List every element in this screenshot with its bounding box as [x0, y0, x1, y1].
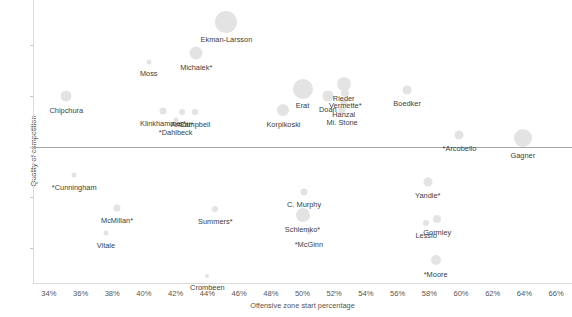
data-point-bubble — [431, 255, 441, 265]
y-axis-tick-mark — [30, 147, 33, 148]
data-point-bubble — [61, 91, 72, 102]
x-axis-tick-label: 62% — [485, 289, 500, 298]
x-axis-tick-label: 56% — [390, 289, 405, 298]
data-point-bubble — [322, 91, 333, 102]
data-point-bubble — [433, 215, 441, 223]
data-point-label: Moss — [140, 69, 158, 78]
data-point-bubble — [423, 220, 429, 226]
x-axis-tick-label: 52% — [327, 289, 342, 298]
y-axis-tick-mark — [30, 248, 33, 249]
data-point-bubble — [205, 274, 209, 278]
data-point-label: Michalek* — [180, 63, 212, 72]
data-point-bubble — [212, 206, 218, 212]
data-point-label: Gagner — [511, 151, 536, 160]
data-point-bubble — [277, 104, 289, 116]
x-axis-line — [33, 283, 572, 284]
data-point-label: *McGinn — [295, 240, 323, 249]
y-axis-label-wrap: Quality of competition — [0, 96, 12, 206]
x-axis-tick-label: 44% — [200, 289, 215, 298]
x-axis-tick-label: 34% — [41, 289, 56, 298]
data-point-bubble — [301, 189, 308, 196]
data-point-bubble — [72, 172, 77, 177]
data-point-label: Mi. Stone — [327, 118, 358, 127]
data-point-bubble — [403, 85, 412, 94]
data-point-label: Summers* — [198, 217, 233, 226]
data-point-bubble — [514, 129, 532, 147]
data-point-bubble — [179, 109, 185, 115]
x-axis-tick-label: 54% — [358, 289, 373, 298]
y-axis-tick-mark — [30, 45, 33, 46]
data-point-bubble — [190, 46, 203, 59]
data-point-bubble — [293, 79, 313, 99]
data-point-label: C. Murphy — [287, 200, 321, 209]
player-usage-scatter-chart: Arizona Coyotes player usage chart Quali… — [0, 0, 572, 317]
data-point-label: Ekman-Larsson — [201, 35, 253, 44]
data-point-label: Chipchura — [49, 106, 83, 115]
x-axis-tick-label: 66% — [549, 289, 564, 298]
data-point-bubble — [114, 205, 121, 212]
data-point-bubble — [192, 109, 198, 115]
data-point-label: *Arcobello — [443, 144, 477, 153]
data-point-label: McMillan* — [101, 216, 133, 225]
x-axis-tick-label: 50% — [295, 289, 310, 298]
data-point-label: Vermette* — [329, 101, 361, 110]
x-axis-tick-label: 42% — [168, 289, 183, 298]
data-point-label: Lessio — [415, 231, 436, 240]
data-point-bubble — [146, 59, 151, 64]
data-point-label: Korpikoski — [266, 120, 300, 129]
data-point-bubble — [215, 11, 237, 33]
data-point-label: *Cunningham — [52, 183, 97, 192]
y-axis-tick-mark — [30, 96, 33, 97]
x-axis-tick-label: 38% — [105, 289, 120, 298]
y-axis-tick-mark — [30, 197, 33, 198]
data-point-bubble — [296, 208, 310, 222]
data-point-label: Schlemko* — [285, 225, 320, 234]
x-axis-tick-label: 58% — [422, 289, 437, 298]
x-axis-tick-label: 48% — [263, 289, 278, 298]
zero-reference-line — [33, 147, 572, 148]
data-point-bubble — [423, 177, 432, 186]
data-point-label: Erat — [296, 101, 310, 110]
x-axis-tick-label: 46% — [231, 289, 246, 298]
x-axis-tick-label: 64% — [517, 289, 532, 298]
data-point-label: Vitale — [97, 241, 115, 250]
x-axis-tick-label: 60% — [453, 289, 468, 298]
data-point-bubble — [103, 231, 108, 236]
plot-area: Ekman-LarssonMichalek*MossChipchuraKlink… — [33, 0, 572, 283]
data-point-label: *Dahlbeck — [159, 128, 193, 137]
data-point-label: Boedker — [393, 99, 421, 108]
data-point-bubble — [455, 131, 464, 140]
x-axis-tick-label: 36% — [73, 289, 88, 298]
data-point-label: Yandle* — [415, 191, 440, 200]
data-point-bubble — [159, 108, 166, 115]
data-point-label: *Moore — [424, 270, 448, 279]
x-axis-tick-label: 40% — [136, 289, 151, 298]
x-axis-label: Offensive zone start percentage — [33, 301, 572, 310]
